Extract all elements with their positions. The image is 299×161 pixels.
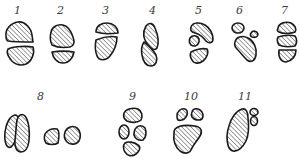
shape-11-small-top — [250, 109, 258, 116]
shape-9-top — [124, 108, 142, 122]
shape-8-tall-right — [15, 115, 30, 152]
shape-10-small-right — [191, 109, 203, 120]
shape-7-mid — [277, 35, 296, 46]
shape-7-bottom — [279, 50, 296, 62]
shape-8-small-left — [44, 129, 59, 145]
shape-9-bottom — [124, 142, 140, 156]
shape-10-small-left — [177, 109, 187, 121]
figure-label-6: 6 — [236, 4, 243, 17]
shape-2-top — [50, 25, 74, 48]
shape-1-top — [6, 22, 33, 42]
figure-7: 7 — [277, 4, 296, 62]
figure-10: 10 — [174, 90, 203, 153]
shape-2-bottom — [52, 51, 74, 63]
shape-11-small-bottom — [251, 117, 258, 126]
shape-1-bottom — [7, 46, 33, 65]
shape-11-big — [227, 109, 249, 151]
diagram-canvas: 1 2 3 4 5 6 7 8 — [0, 0, 299, 161]
shape-10-big — [174, 125, 202, 153]
shape-6-tiny-right — [250, 31, 258, 37]
shape-9-mid-left — [119, 125, 129, 139]
shape-9-mid-right — [134, 126, 146, 141]
shape-6-small-left — [232, 23, 244, 33]
figure-4: 4 — [142, 4, 158, 66]
figure-1: 1 — [6, 4, 34, 65]
shape-6-big — [235, 37, 257, 62]
figure-label-5: 5 — [195, 4, 202, 17]
shape-5-mid — [189, 36, 199, 46]
shape-3-bottom — [95, 37, 117, 60]
figure-label-8: 8 — [37, 90, 44, 103]
figure-label-10: 10 — [184, 90, 198, 103]
figure-label-1: 1 — [14, 4, 21, 17]
shape-5-bottom — [190, 49, 207, 64]
figure-5: 5 — [189, 4, 213, 63]
figure-2: 2 — [50, 4, 74, 63]
figure-11: 11 — [227, 90, 258, 151]
figure-6: 6 — [232, 4, 258, 61]
figure-label-9: 9 — [129, 90, 136, 103]
figure-8: 8 — [5, 90, 81, 152]
shape-3-top — [96, 23, 118, 34]
figure-label-4: 4 — [148, 4, 156, 17]
figure-label-2: 2 — [56, 4, 64, 17]
shape-8-small-right — [64, 127, 80, 145]
figure-label-7: 7 — [281, 4, 288, 17]
shape-7-top — [277, 22, 295, 33]
figure-9: 9 — [119, 90, 146, 156]
figure-3: 3 — [95, 4, 118, 60]
figure-label-11: 11 — [238, 90, 252, 103]
figure-label-3: 3 — [102, 4, 109, 17]
